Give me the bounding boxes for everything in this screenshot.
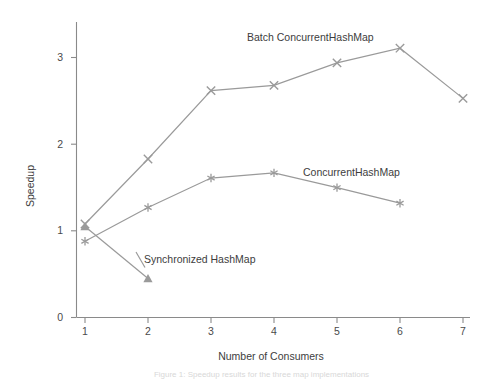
data-point	[144, 203, 151, 211]
x-axis-ticks: 1 2 3 4 5 6 7	[82, 318, 466, 338]
data-point	[144, 155, 152, 163]
data-point	[80, 222, 89, 230]
data-point	[459, 94, 467, 102]
y-tick-label-3: 3	[57, 51, 63, 63]
x-tick-label-3: 3	[208, 325, 214, 337]
data-point	[396, 199, 403, 207]
series-label-concurrenthashmap: ConcurrentHashMap	[303, 166, 400, 178]
series-line-concurrent	[85, 173, 400, 241]
chart-canvas: 0 1 2 3 1 2 3 4 5 6 7 Speedup	[0, 0, 493, 386]
series-markers-batch	[81, 44, 467, 228]
figure-caption-strip: Figure 1: Speedup results for the three …	[0, 370, 493, 386]
x-tick-label-4: 4	[271, 325, 277, 337]
x-axis-title: Number of Consumers	[218, 350, 324, 362]
y-tick-label-2: 2	[57, 138, 63, 150]
y-axis-title: Speedup	[24, 165, 36, 207]
series-line-batch	[85, 48, 463, 224]
y-tick-label-0: 0	[57, 311, 63, 323]
y-tick-label-1: 1	[57, 224, 63, 236]
figure-caption: Figure 1: Speedup results for the three …	[0, 370, 493, 380]
x-tick-label-2: 2	[145, 325, 151, 337]
series-synchronized-hashmap	[80, 222, 152, 282]
x-tick-label-6: 6	[397, 325, 403, 337]
y-axis-ticks: 0 1 2 3	[57, 51, 76, 323]
data-point	[333, 59, 341, 67]
x-tick-label-5: 5	[334, 325, 340, 337]
series-label-batch-concurrenthashmap: Batch ConcurrentHashMap	[247, 31, 374, 43]
series-label-synchronized-hashmap: Synchronized HashMap	[144, 253, 256, 265]
data-point	[396, 44, 404, 52]
series-line-synchronized	[85, 227, 148, 279]
series-batch-concurrenthashmap	[81, 44, 467, 228]
x-tick-label-7: 7	[460, 325, 466, 337]
data-point	[81, 237, 88, 245]
speedup-line-chart: 0 1 2 3 1 2 3 4 5 6 7 Speedup	[0, 0, 493, 386]
x-tick-label-1: 1	[82, 325, 88, 337]
series-markers-concurrent	[81, 169, 403, 246]
series-concurrenthashmap	[81, 169, 403, 246]
